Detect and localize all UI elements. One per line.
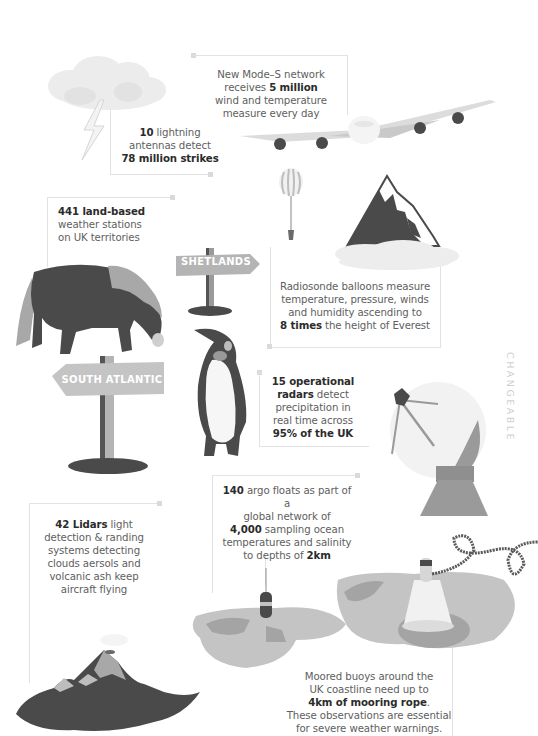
- connector-line: [110, 174, 210, 175]
- connector-line: [193, 55, 347, 56]
- connector-line: [259, 446, 369, 447]
- connector-line: [47, 197, 48, 267]
- radars-fact: 15 operational radars detect precipitati…: [268, 375, 358, 440]
- connector-dot: [355, 473, 360, 478]
- mountain-icon: [335, 166, 455, 272]
- connector-line: [270, 347, 356, 348]
- lightning-fact: 10 lightning antennas detect 78 million …: [120, 126, 220, 165]
- radar-dish-icon: [378, 380, 498, 516]
- connector-dot: [267, 344, 272, 349]
- argo-float-icon: [186, 568, 356, 678]
- connector-line: [47, 197, 171, 198]
- land-stations-fact: 441 land-based weather stations on UK te…: [58, 205, 158, 244]
- pony-icon: [12, 258, 172, 363]
- buoys-fact: Moored buoys around the UK coastline nee…: [286, 670, 452, 735]
- connector-line: [270, 247, 271, 347]
- shetlands-sign-label: SHETLANDS: [180, 256, 252, 267]
- connector-line: [355, 347, 441, 348]
- connector-line: [259, 372, 260, 446]
- side-label: CHANGEABLE: [505, 352, 516, 442]
- radiosonde-fact: Radiosonde balloons measure temperature,…: [272, 280, 438, 332]
- connector-dot: [208, 172, 213, 177]
- penguin-icon: [188, 326, 258, 466]
- radiosonde-balloon-icon: [276, 168, 306, 243]
- connector-line: [29, 503, 159, 504]
- connector-line: [452, 648, 453, 736]
- connector-dot: [157, 501, 162, 506]
- connector-line: [212, 475, 357, 476]
- lightning-bolt-icon: [78, 100, 108, 160]
- lidars-fact: 42 Lidars light detection & randing syst…: [44, 518, 144, 596]
- moored-buoy-icon: [334, 530, 538, 660]
- south-atlantic-sign-label: SOUTH ATLANTIC: [60, 374, 164, 385]
- argo-fact: 140 argo floats as part of a global netw…: [222, 484, 352, 562]
- connector-dot: [170, 195, 175, 200]
- volcano-icon: [14, 636, 204, 736]
- mode-s-fact: New Mode–S network receives 5 million wi…: [205, 68, 337, 120]
